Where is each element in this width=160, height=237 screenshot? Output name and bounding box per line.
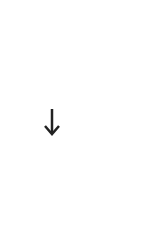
fraction-diagram xyxy=(0,0,160,237)
down-arrow-icon xyxy=(45,109,59,134)
